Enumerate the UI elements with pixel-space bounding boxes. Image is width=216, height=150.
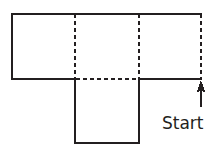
start-label: Start (162, 113, 204, 133)
start-arrow (197, 80, 206, 107)
figure-root: Start (0, 0, 216, 150)
dashed-edges (75, 14, 201, 79)
